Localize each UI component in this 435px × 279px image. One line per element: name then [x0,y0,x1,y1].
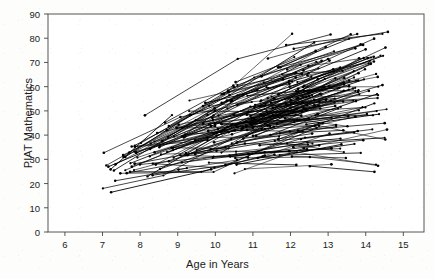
data-point-marker [265,86,267,88]
data-point-marker [227,147,229,149]
data-point-marker [206,136,209,139]
data-point-marker [188,99,190,101]
data-point-marker [373,102,375,104]
data-point-marker [311,132,314,135]
data-point-marker [267,57,270,60]
data-point-marker [144,114,147,117]
data-point-marker [102,151,105,154]
data-point-marker [343,151,345,153]
data-point-marker [177,168,180,171]
data-point-marker [234,124,237,127]
data-point-marker [357,89,359,91]
data-point-marker [333,50,335,52]
data-point-marker [235,163,238,166]
data-point-marker [171,114,173,116]
data-point-marker [288,85,291,88]
data-point-marker [347,115,350,118]
data-point-marker [308,117,310,119]
data-point-marker [296,81,298,83]
data-point-marker [378,113,380,115]
data-point-marker [159,145,161,147]
data-point-marker [258,105,261,108]
data-point-marker [306,141,308,143]
data-point-marker [235,151,237,153]
x-tick-label: 15 [398,239,409,250]
data-point-marker [328,59,331,62]
data-point-marker [339,137,341,139]
data-point-marker [288,80,291,83]
data-point-marker [277,93,280,96]
data-point-marker [173,135,175,137]
data-point-marker [240,128,243,131]
data-point-marker [356,130,359,133]
data-point-marker [226,107,228,109]
data-point-marker [228,94,231,97]
plot-canvas [0,0,435,279]
data-point-marker [340,106,342,108]
data-point-marker [212,114,214,116]
data-point-marker [367,89,370,92]
data-point-marker [181,135,184,138]
data-point-marker [353,131,355,133]
data-point-marker [213,141,216,144]
data-point-marker [346,125,349,128]
data-point-marker [233,86,236,89]
data-point-marker [265,110,267,112]
data-point-marker [362,44,365,47]
x-tick-label: 14 [360,239,371,250]
data-point-marker [318,124,321,127]
data-point-marker [334,105,337,108]
data-point-marker [353,76,355,78]
y-tick-label: 90 [12,9,40,20]
data-point-marker [276,123,278,125]
data-point-marker [232,113,235,116]
data-point-marker [354,90,356,92]
data-point-marker [133,150,135,152]
data-point-marker [254,104,256,106]
data-point-marker [332,68,335,71]
data-point-marker [159,168,162,171]
data-point-marker [244,168,246,170]
data-point-marker [233,172,235,174]
data-point-marker [373,60,376,63]
y-tick-label: 10 [12,202,40,213]
data-point-marker [258,144,261,147]
data-point-marker [302,69,305,72]
data-point-marker [375,73,377,75]
data-point-marker [381,84,384,87]
data-point-marker [133,162,136,165]
data-point-marker [274,140,276,142]
data-point-marker [212,132,214,134]
x-tick-label: 7 [100,239,105,250]
data-point-marker [224,146,226,148]
data-point-marker [136,156,138,158]
data-point-marker [384,137,386,139]
data-point-marker [330,147,333,150]
data-point-marker [168,125,171,128]
data-point-marker [364,68,366,70]
data-point-marker [379,55,381,57]
data-point-marker [263,154,266,157]
data-point-marker [279,66,282,69]
data-point-marker [301,95,303,97]
data-point-marker [245,135,247,137]
data-point-marker [109,168,112,171]
data-point-marker [303,147,306,150]
data-point-marker [339,148,341,150]
data-point-marker [149,142,151,144]
x-tick-label: 6 [62,239,67,250]
data-point-marker [387,31,390,34]
data-point-marker [307,65,310,68]
data-point-marker [114,180,116,182]
data-point-marker [235,153,237,155]
data-point-marker [253,76,255,78]
data-point-marker [319,93,321,95]
data-point-marker [357,79,360,82]
data-point-marker [310,76,312,78]
y-tick-label: 0 [12,227,40,238]
data-point-marker [376,76,379,79]
data-point-marker [133,169,135,171]
data-point-marker [153,151,156,154]
data-point-marker [124,169,126,171]
data-point-marker [179,154,181,156]
